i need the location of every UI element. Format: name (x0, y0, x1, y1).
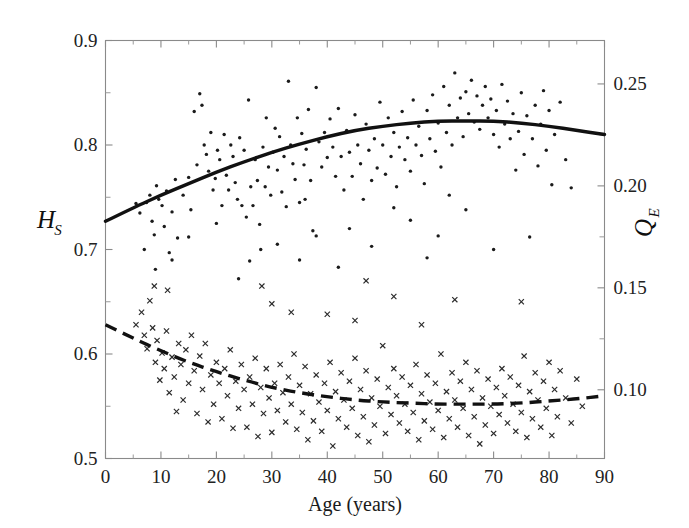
data-point-x (372, 422, 377, 427)
data-point (143, 248, 146, 251)
data-point-x (538, 425, 543, 430)
data-point (484, 85, 487, 88)
data-point (348, 151, 351, 154)
data-point (303, 198, 306, 201)
data-point (225, 174, 228, 177)
data-point (392, 131, 395, 134)
data-point (387, 116, 390, 119)
data-point-x (416, 437, 421, 442)
data-point (364, 122, 367, 125)
data-point (489, 97, 492, 100)
data-point (160, 204, 163, 207)
y-axis-right-title: Q E (630, 208, 662, 237)
data-point-x (305, 437, 310, 442)
data-point-x (183, 347, 188, 352)
data-point-x (225, 393, 230, 398)
data-point-x (192, 368, 197, 373)
data-point (168, 251, 171, 254)
data-point-x (344, 425, 349, 430)
data-point-x (411, 410, 416, 415)
data-point (370, 245, 373, 248)
data-point (339, 155, 342, 158)
data-point (445, 131, 448, 134)
y-right-tick-label: 0.25 (614, 73, 647, 94)
data-point-x (205, 419, 210, 424)
data-point-x (472, 414, 477, 419)
data-point (533, 104, 536, 107)
data-point-x (546, 360, 551, 365)
data-point (467, 112, 470, 115)
data-point (570, 186, 573, 189)
data-point-x (366, 439, 371, 444)
data-point (553, 133, 556, 136)
data-point (258, 223, 261, 226)
data-point (337, 266, 340, 269)
data-point-x (228, 347, 233, 352)
data-point (227, 188, 230, 191)
data-point-x (388, 412, 393, 417)
data-point-x (174, 409, 179, 414)
data-point (242, 149, 245, 152)
data-point-x (580, 404, 585, 409)
data-point (282, 155, 285, 158)
data-point (417, 124, 420, 127)
data-point-x (499, 366, 504, 371)
data-point (436, 234, 439, 237)
data-point-x (269, 301, 274, 306)
data-point (202, 143, 205, 146)
data-point-x (483, 422, 488, 427)
data-point-x (336, 416, 341, 421)
data-point-x (322, 381, 327, 386)
data-point-x (441, 435, 446, 440)
y-tick-label: 0.9 (74, 30, 98, 51)
data-point (370, 179, 373, 182)
data-point-x (477, 441, 482, 446)
data-point (305, 147, 308, 150)
data-point-x (413, 362, 418, 367)
data-point (456, 116, 459, 119)
data-point (291, 162, 294, 165)
data-point-x (203, 341, 208, 346)
data-point-x (502, 393, 507, 398)
data-point-x (519, 410, 524, 415)
data-point-x (289, 310, 294, 315)
data-point-x (264, 366, 269, 371)
x-axis-minor-ticks (133, 41, 577, 459)
data-point (511, 112, 514, 115)
data-point (464, 90, 467, 93)
data-point (334, 175, 337, 178)
data-point (238, 136, 241, 139)
data-point (251, 204, 254, 207)
data-point (170, 258, 173, 261)
data-point-x (164, 328, 169, 333)
data-point (234, 181, 237, 184)
data-point (453, 71, 456, 74)
data-point-x (530, 416, 535, 421)
data-point (470, 79, 473, 82)
y-right-tick-label: 0.10 (614, 379, 647, 400)
data-point (420, 154, 423, 157)
data-point (209, 131, 212, 134)
data-point (229, 143, 232, 146)
data-point (409, 219, 412, 222)
data-point-x (286, 374, 291, 379)
data-point-x (178, 362, 183, 367)
data-point-x (316, 399, 321, 404)
data-point (448, 104, 451, 107)
data-point (174, 178, 177, 181)
data-point (353, 113, 356, 116)
data-point (293, 178, 296, 181)
data-point (200, 104, 203, 107)
data-point (520, 91, 523, 94)
data-point (495, 109, 498, 112)
data-point-x (497, 412, 502, 417)
data-point (348, 227, 351, 230)
data-point-x (208, 372, 213, 377)
data-point (276, 168, 279, 171)
x-tick-label: 50 (373, 466, 392, 487)
data-point-x (355, 433, 360, 438)
data-point (459, 96, 462, 99)
data-point (170, 210, 173, 213)
data-point-x (275, 408, 280, 413)
data-point-x (544, 406, 549, 411)
